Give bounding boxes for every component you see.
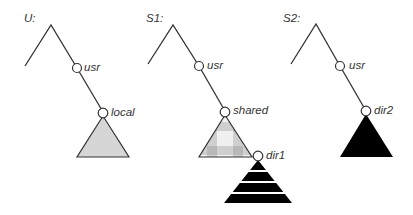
diagram-canvas bbox=[0, 0, 413, 215]
node-usr bbox=[73, 64, 82, 73]
subtree-shared-triangle bbox=[199, 115, 252, 157]
tree-label-s2: S2: bbox=[283, 13, 300, 25]
node-label-usr: usr bbox=[207, 60, 223, 72]
node-label-usr: usr bbox=[84, 62, 100, 74]
branch-usr-shared bbox=[199, 66, 225, 111]
node-label-local: local bbox=[111, 107, 135, 119]
node-label-dir1: dir1 bbox=[266, 150, 285, 162]
node-local bbox=[98, 108, 108, 118]
node-label-shared: shared bbox=[233, 105, 268, 117]
node-label-usr: usr bbox=[349, 60, 365, 72]
node-usr bbox=[195, 62, 204, 71]
node-dir1 bbox=[253, 151, 263, 161]
branch-root bbox=[25, 25, 77, 68]
node-usr bbox=[336, 62, 345, 71]
node-label-dir2: dir2 bbox=[374, 105, 393, 117]
node-shared bbox=[220, 107, 230, 117]
tree-s1 bbox=[148, 25, 292, 203]
subtree-local-triangle bbox=[77, 116, 129, 157]
tree-label-u: U: bbox=[24, 13, 36, 25]
branch-usr-local bbox=[77, 68, 103, 112]
node-dir2 bbox=[361, 106, 371, 116]
tree-u bbox=[25, 25, 129, 157]
tree-label-s1: S1: bbox=[146, 13, 163, 25]
tree-s2 bbox=[291, 24, 393, 157]
branch-usr-dir2 bbox=[340, 66, 366, 111]
branch-root bbox=[291, 24, 340, 66]
branch-root bbox=[148, 25, 199, 66]
subtree-dir2-triangle bbox=[340, 114, 393, 157]
